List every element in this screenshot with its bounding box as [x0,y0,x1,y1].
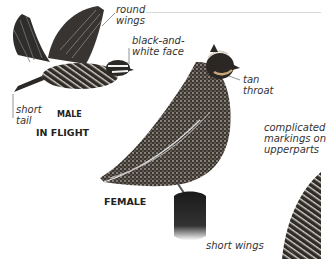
label-line: throat [243,85,274,96]
label-line: tail [16,115,42,126]
label-complicated-markings: complicated markings on upperparts [264,122,326,155]
label-line: upperparts [264,144,326,155]
caption-in-flight: IN FLIGHT [36,127,89,138]
label-line: complicated [264,122,326,133]
label-line: short [16,104,42,115]
caption-male: MALE [57,110,82,119]
label-round-wings: round wings [116,4,145,26]
closeup-bird-partial-icon [282,172,321,259]
label-line: round [116,4,145,15]
label-line: tan [243,74,274,85]
label-short-wings: short wings [206,240,264,251]
caption-female: FEMALE [104,196,146,207]
label-line: markings on [264,133,326,144]
label-short-tail: short tail [16,104,42,126]
label-black-white-face: black-and- white face [132,35,185,57]
label-line: white face [132,46,185,57]
label-line: black-and- [132,35,185,46]
label-line: wings [116,15,145,26]
label-tan-throat: tan throat [243,74,274,96]
